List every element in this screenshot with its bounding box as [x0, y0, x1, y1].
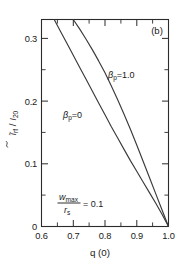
x-axis-ticks-top	[42, 20, 169, 27]
tilde-accent-icon	[6, 141, 8, 147]
x-ticklabel-06: 0.6	[35, 231, 47, 241]
x-axis-ticks	[42, 220, 169, 227]
x-ticklabel-09: 0.9	[131, 231, 143, 241]
y-ticklabel-02: 0.2	[25, 97, 37, 107]
beta-p-one-value: 1.0	[122, 70, 135, 80]
panel-label: (b)	[151, 25, 163, 36]
beta-p-one-label: βp=1.0	[107, 70, 135, 82]
svg-text:βp=0: βp=0	[62, 110, 82, 122]
beta-p-zero-label: βp=0	[62, 110, 82, 122]
wmax-rs-annotation: wmax rs = 0.1	[58, 192, 104, 216]
y-axis-ticks	[42, 38, 49, 226]
chart-svg: 0 0.1 0.2 0.3 0.6 0.7 0.8 0.9 1.0 q (0) …	[0, 0, 181, 265]
svg-text:ĩrf / I20: ĩrf / I20	[7, 110, 19, 136]
x-ticklabel-10: 1.0	[162, 231, 174, 241]
y-axis-title: ĩrf / I20	[6, 110, 19, 147]
svg-text:βp=1.0: βp=1.0	[107, 70, 135, 82]
rs-denominator-sub: s	[67, 209, 71, 216]
y-ticklabel-03: 0.3	[25, 34, 37, 44]
svg-text:rs: rs	[64, 205, 71, 216]
wmax-numerator-sub: max	[66, 196, 79, 203]
figure-panel-b: 0 0.1 0.2 0.3 0.6 0.7 0.8 0.9 1.0 q (0) …	[0, 0, 181, 265]
x-axis-title: q (0)	[90, 247, 110, 258]
svg-text:wmax: wmax	[59, 192, 79, 203]
y-ticklabel-01: 0.1	[25, 159, 37, 169]
curve-beta-p-one	[73, 20, 168, 227]
x-ticklabel-07: 0.7	[67, 231, 79, 241]
beta-p-zero-value: 0	[77, 110, 82, 120]
x-ticklabel-08: 0.8	[99, 231, 111, 241]
y-axis-ticks-right	[162, 38, 169, 226]
y-axis-title-denominator-sub: 20	[12, 110, 19, 118]
wmax-rs-value: = 0.1	[83, 199, 103, 209]
